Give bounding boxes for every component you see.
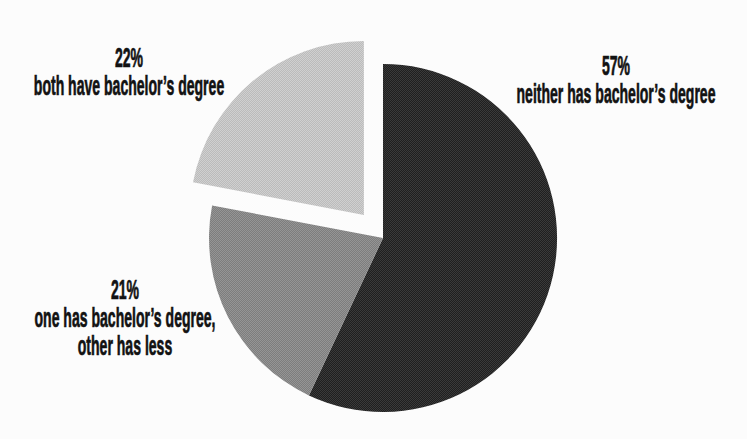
slice-desc-neither: neither has bachelor’s degree xyxy=(517,80,716,108)
pie-chart-figure: 57% neither has bachelor’s degree 21% on… xyxy=(0,0,747,439)
slice-pct-one-has: 21% xyxy=(34,276,215,304)
slice-desc-one-has: one has bachelor’s degree, xyxy=(34,304,215,332)
slice-label-neither: 57% neither has bachelor’s degree xyxy=(517,52,716,108)
slice-pct-neither: 57% xyxy=(517,52,716,80)
slice-label-one-has: 21% one has bachelor’s degree, other has… xyxy=(34,276,215,360)
slice-label-both: 22% both have bachelor’s degree xyxy=(34,44,224,100)
slice-desc-both: both have bachelor’s degree xyxy=(34,72,224,100)
slice-desc2-one-has: other has less xyxy=(34,332,215,360)
slice-pct-both: 22% xyxy=(34,44,224,72)
